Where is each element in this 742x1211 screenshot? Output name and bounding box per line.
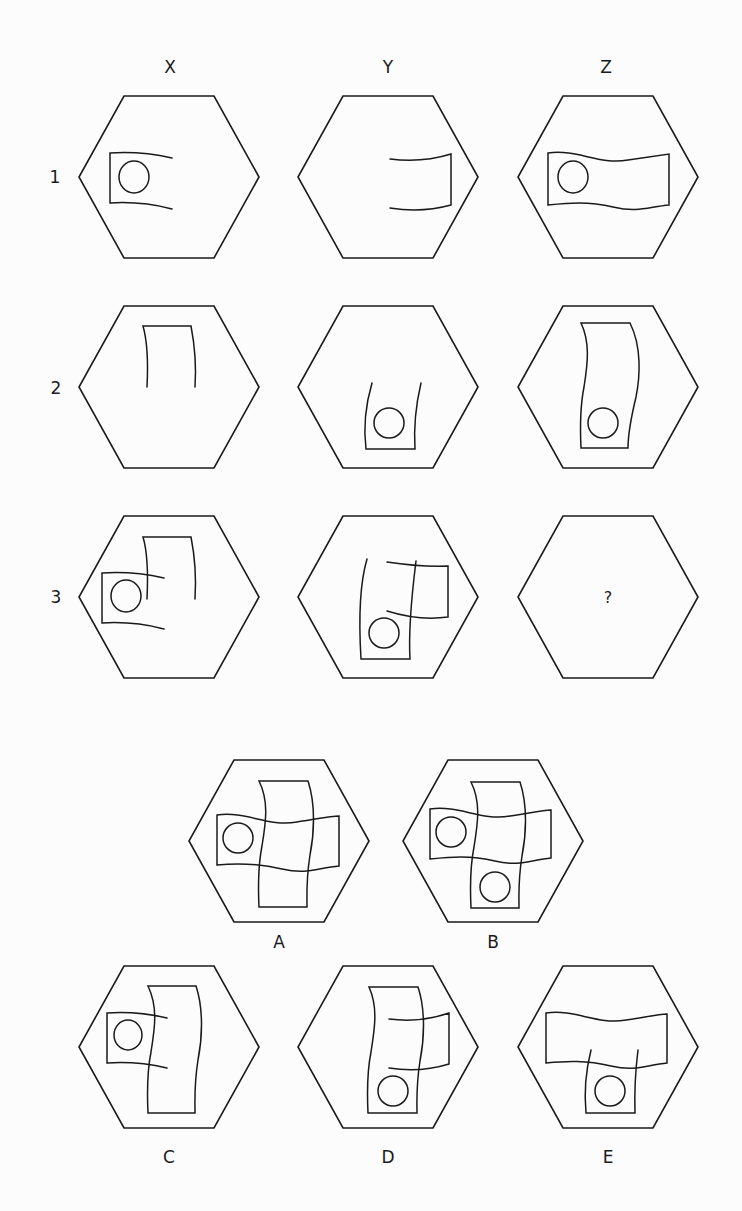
figure <box>143 326 196 387</box>
bar-outline <box>143 326 196 387</box>
circle-hole <box>588 408 618 438</box>
figure <box>546 1012 667 1113</box>
bar-outline <box>546 1012 667 1068</box>
figure <box>217 781 339 907</box>
hexagon-frame <box>518 96 698 258</box>
column-label-z: Z <box>600 57 612 77</box>
grid-cell-x1 <box>79 96 259 258</box>
grid-cell-y1 <box>298 96 478 258</box>
hexagon-frame <box>518 966 698 1128</box>
figure <box>430 782 551 908</box>
option-label-c: C <box>163 1147 175 1167</box>
answer-options: ABCDE <box>79 760 698 1167</box>
column-label-y: Y <box>382 57 394 77</box>
figure <box>365 383 421 449</box>
figure <box>548 152 669 209</box>
hexagon-frame <box>298 966 478 1128</box>
option-d[interactable]: D <box>298 966 478 1167</box>
circle-hole <box>114 1020 142 1050</box>
hexagon-frame <box>298 306 478 468</box>
option-c[interactable]: C <box>79 966 259 1167</box>
question-mark: ? <box>604 588 613 607</box>
hexagon-frame <box>298 516 478 678</box>
circle-hole <box>378 1076 408 1106</box>
hexagon-frame <box>79 96 259 258</box>
bar-outline <box>258 781 313 907</box>
option-label-e: E <box>603 1147 614 1167</box>
figure <box>360 559 448 659</box>
option-a[interactable]: A <box>189 760 369 952</box>
figure <box>102 537 196 629</box>
bar-outline <box>387 562 448 618</box>
circle-hole <box>223 823 253 853</box>
figure <box>107 986 202 1113</box>
grid-cell-y3 <box>298 516 478 678</box>
column-label-x: X <box>164 57 176 77</box>
grid-cell-x3 <box>79 516 259 678</box>
bar-outline <box>367 987 423 1113</box>
bar-outline <box>365 383 421 449</box>
grid-cell-z3: ? <box>518 516 698 678</box>
figure <box>110 153 172 209</box>
circle-hole <box>480 872 510 902</box>
grid-cell-x2 <box>79 306 259 468</box>
hexagon-frame <box>518 306 698 468</box>
option-b[interactable]: B <box>403 760 583 952</box>
option-label-d: D <box>381 1147 394 1167</box>
bar-outline <box>390 154 451 210</box>
bar-outline <box>585 1050 638 1113</box>
bar-outline <box>107 1013 167 1068</box>
bar-outline <box>470 782 525 908</box>
bar-outline <box>360 559 416 659</box>
circle-hole <box>595 1076 625 1106</box>
bar-outline <box>389 1013 449 1070</box>
grid-cell-z2 <box>518 306 698 468</box>
figure <box>390 154 451 210</box>
puzzle-canvas: XYZ 123 ? ABCDE <box>0 0 742 1211</box>
row-label-3: 3 <box>51 587 62 607</box>
circle-hole <box>374 408 404 438</box>
figure <box>580 323 639 448</box>
grid-cell-y2 <box>298 306 478 468</box>
bar-outline <box>548 152 669 209</box>
grid-cell-z1 <box>518 96 698 258</box>
puzzle-grid: ? <box>79 96 698 678</box>
circle-hole <box>558 161 588 193</box>
option-e[interactable]: E <box>518 966 698 1167</box>
circle-hole <box>436 817 466 847</box>
column-labels: XYZ <box>164 57 612 77</box>
option-label-b: B <box>487 932 499 952</box>
hexagon-frame <box>79 516 259 678</box>
hexagon-frame <box>79 966 259 1128</box>
circle-hole <box>369 618 399 648</box>
row-labels: 123 <box>50 167 62 607</box>
bar-outline <box>143 537 196 599</box>
row-label-2: 2 <box>51 378 62 398</box>
row-label-1: 1 <box>50 167 61 187</box>
figure <box>367 987 449 1113</box>
bar-outline <box>147 986 201 1113</box>
circle-hole <box>119 161 149 193</box>
option-label-a: A <box>273 932 285 952</box>
circle-hole <box>111 580 141 612</box>
hexagon-frame <box>189 760 369 922</box>
hexagon-frame <box>79 306 259 468</box>
